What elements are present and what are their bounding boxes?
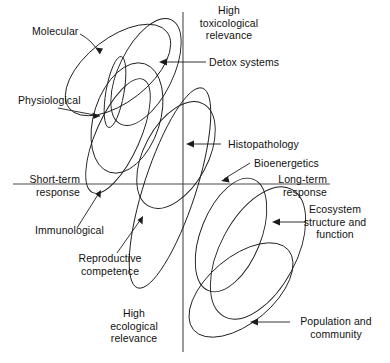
detox-ellipse [96,8,195,136]
label-high-ecological-relevance: High ecological relevance [98,307,170,345]
bioenergetics-arrowhead [221,177,230,183]
label-histopathology: Histopathology [228,138,299,151]
molecular-leader [80,34,100,54]
label-molecular: Molecular [32,25,78,38]
label-short-term-response: Short-term response [14,173,80,198]
label-immunological: Immunological [35,224,104,237]
physiological-ellipse [78,54,176,183]
ecosystem-arrowhead [272,219,280,226]
label-high-toxicological-relevance: High toxicological relevance [188,4,270,42]
immunological-leader [77,193,99,228]
label-bioenergetics: Bioenergetics [254,157,319,170]
label-reproductive-competence: Reproductive competence [68,252,152,277]
label-long-term-response: Long-term response [248,173,327,198]
reproductive-leader [117,219,141,253]
population-arrowhead [250,319,258,326]
label-physiological: Physiological [18,94,81,107]
ecotoxicology-relevance-diagram: Molecular Physiological High toxicologic… [0,0,390,363]
label-detox-systems: Detox systems [209,56,279,69]
histopathology-arrowhead [186,141,194,148]
label-ecosystem-structure-and-function: Ecosystem structure and function [288,203,382,241]
label-population-and-community: Population and community [288,315,384,340]
detox-arrowhead [159,59,167,66]
physiological-arrowhead [93,113,101,120]
